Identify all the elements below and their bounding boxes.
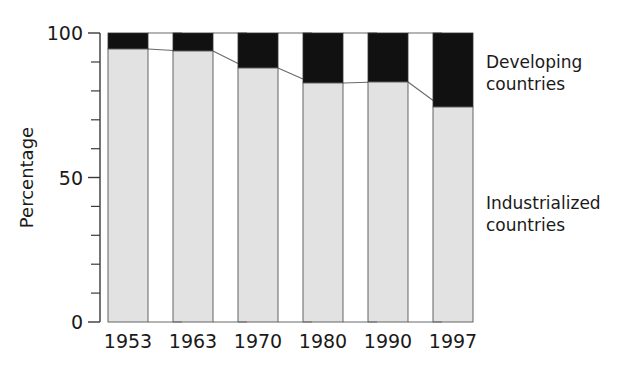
bar-group-1970 <box>238 33 278 322</box>
bar-developing-1953 <box>108 33 148 49</box>
bar-industrialized-1980 <box>303 83 343 322</box>
x-tick-label-1953: 1953 <box>104 330 152 352</box>
bar-industrialized-1970 <box>238 68 278 322</box>
y-tick-label-100: 100 <box>47 22 83 44</box>
bar-developing-1980 <box>303 33 343 83</box>
bar-group-1997 <box>433 33 473 322</box>
bar-group-1963 <box>173 33 213 322</box>
bar-developing-1963 <box>173 33 213 51</box>
x-tick-label-1963: 1963 <box>169 330 217 352</box>
x-tick-label-1970: 1970 <box>234 330 282 352</box>
y-tick-label-50: 50 <box>59 167 83 189</box>
y-axis-title: Percentage <box>16 127 37 228</box>
bar-industrialized-1990 <box>368 82 408 322</box>
y-tick-label-0: 0 <box>71 311 83 333</box>
bar-developing-1970 <box>238 33 278 68</box>
bar-developing-1997 <box>433 33 473 107</box>
bar-group-1990 <box>368 33 408 322</box>
chart-figure: 100 50 0 Percentage <box>0 0 622 366</box>
legend-industrialized-line1: Industrialized <box>486 193 601 213</box>
x-tick-label-1990: 1990 <box>364 330 412 352</box>
legend-developing-line1: Developing <box>486 52 582 72</box>
x-tick-label-1980: 1980 <box>299 330 347 352</box>
bar-industrialized-1953 <box>108 49 148 322</box>
bar-industrialized-1997 <box>433 107 473 322</box>
legend-industrialized-line2: countries <box>486 215 565 235</box>
x-tick-label-1997: 1997 <box>429 330 477 352</box>
legend-developing-line2: countries <box>486 74 565 94</box>
bar-industrialized-1963 <box>173 51 213 322</box>
stacked-bar-chart: 100 50 0 Percentage <box>0 0 622 366</box>
bar-group-1953 <box>108 33 148 322</box>
bar-group-1980 <box>303 33 343 322</box>
bar-developing-1990 <box>368 33 408 82</box>
